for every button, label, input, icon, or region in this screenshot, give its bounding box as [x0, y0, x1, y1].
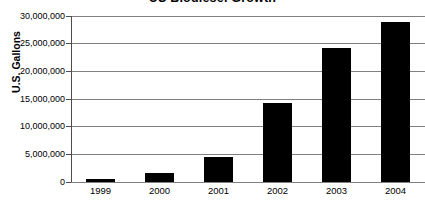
bar-slot: [130, 16, 189, 182]
y-axis-tick-label: 5,000,000: [25, 150, 65, 159]
x-axis-tick-label: 2002: [248, 185, 307, 196]
bar-slot: [248, 16, 307, 182]
y-axis-tick-label: 30,000,000: [20, 12, 65, 21]
x-axis-tick-label: 2000: [130, 185, 189, 196]
bar: [86, 179, 115, 182]
bar: [263, 103, 292, 182]
x-axis-tick-label: 2001: [189, 185, 248, 196]
bar: [204, 157, 233, 182]
plot-area: [71, 16, 425, 182]
bar-chart: US Biodiesel Growth U.S. Gallons 05,000,…: [0, 0, 425, 207]
y-axis-tick-labels: 05,000,00010,000,00015,000,00020,000,000…: [0, 16, 65, 182]
x-axis-tick-label: 2003: [307, 185, 366, 196]
y-axis-tick-label: 10,000,000: [20, 122, 65, 131]
y-axis-tick-label: 15,000,000: [20, 95, 65, 104]
bar: [322, 48, 351, 182]
bar-slot: [307, 16, 366, 182]
bar-slot: [71, 16, 130, 182]
bar: [381, 22, 410, 182]
y-axis-tick-label: 0: [60, 178, 65, 187]
bar-slot: [189, 16, 248, 182]
y-axis-tick-label: 20,000,000: [20, 67, 65, 76]
x-axis-tick-labels: 199920002001200220032004: [71, 185, 425, 199]
y-axis-tick-label: 25,000,000: [20, 39, 65, 48]
bars-layer: [71, 16, 425, 182]
x-axis-tick-label: 2004: [366, 185, 425, 196]
chart-title: US Biodiesel Growth: [0, 0, 425, 5]
x-axis-tick-label: 1999: [71, 185, 130, 196]
bar-slot: [366, 16, 425, 182]
bar: [145, 173, 174, 182]
